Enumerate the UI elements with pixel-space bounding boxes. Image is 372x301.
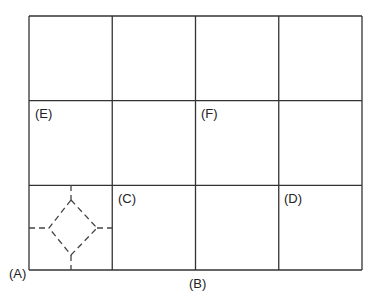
grid-lines <box>29 16 362 270</box>
label-e: (E) <box>35 106 52 121</box>
label-f: (F) <box>201 106 218 121</box>
diamond-outline <box>49 200 97 255</box>
label-b: (B) <box>189 276 206 291</box>
label-c: (C) <box>118 191 136 206</box>
dashed-diamond <box>29 185 113 270</box>
label-a: (A) <box>9 266 26 281</box>
grid-diagram: (E) (F) (C) (D) (A) (B) <box>0 0 372 301</box>
label-d: (D) <box>284 191 302 206</box>
